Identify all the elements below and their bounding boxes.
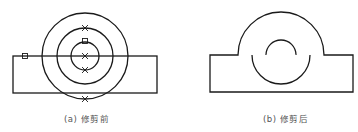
intersection-x-markers <box>82 25 88 102</box>
figure-after-trim <box>210 12 353 92</box>
caption-after-trim: (b) 修剪后 <box>263 112 308 124</box>
rectangle-shape <box>13 56 157 93</box>
figure-before-trim <box>13 13 157 102</box>
caption-before-trim: (a) 修剪前 <box>64 112 109 124</box>
trimmed-outline <box>210 12 353 92</box>
